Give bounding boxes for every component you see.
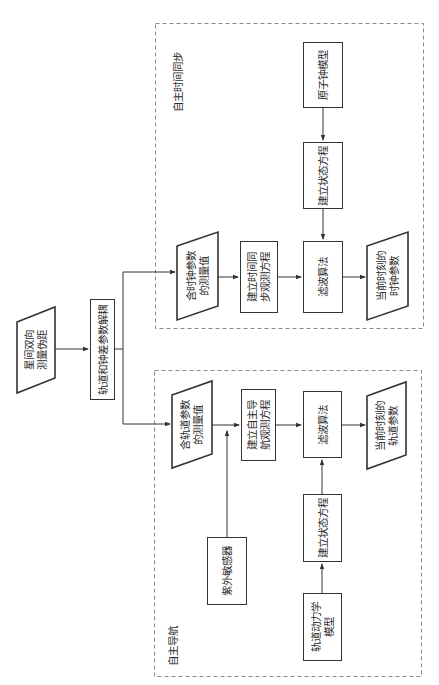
time-sync-state-eq-label: 建立状态方程	[317, 146, 330, 206]
time-sync-filter-label: 滤波算法	[317, 257, 330, 297]
navigation-model-node: 轨道动力学 模型	[303, 593, 342, 661]
source-label: 星间双向 测量伪距	[23, 330, 49, 370]
time-sync-output-label: 当前时刻的 时钟参数	[375, 251, 401, 301]
navigation-observation-eq-node: 建立自主导 航观测方程	[241, 389, 276, 461]
time-sync-output-node: 当前时刻的 时钟参数	[367, 232, 408, 320]
navigation-measurement-node: 含轨道参数 的测量值	[172, 381, 212, 468]
decouple-node: 轨道和钟差参数解耦	[90, 299, 115, 400]
time-sync-observation-eq-node: 建立时间同 步观测方程	[240, 241, 278, 313]
navigation-measurement-label: 含轨道参数 的测量值	[179, 400, 205, 450]
navigation-filter-label: 滤波算法	[316, 405, 329, 445]
navigation-output-node: 当前时刻的 轨道参数	[367, 382, 406, 469]
navigation-state-eq-node: 建立状态方程	[303, 494, 342, 562]
navigation-observation-eq-label: 建立自主导 航观测方程	[246, 400, 272, 450]
flowchart-canvas: 自主时间同步 自主导航 星间双向 测量伪距 轨道和钟差参数解耦 含时钟参数 的测…	[0, 0, 439, 685]
navigation-state-eq-label: 建立状态方程	[316, 498, 329, 558]
navigation-filter-node: 滤波算法	[303, 391, 342, 458]
time-sync-measurement-label: 含时钟参数 的测量值	[185, 251, 211, 301]
navigation-sensor-label: 紫外敏感器	[221, 546, 234, 596]
group-title-time-sync: 自主时间同步	[170, 52, 185, 112]
navigation-sensor-node: 紫外敏感器	[207, 537, 247, 605]
group-title-navigation: 自主导航	[165, 626, 180, 666]
time-sync-model-node: 原子钟模型	[303, 42, 343, 108]
time-sync-measurement-node: 含时钟参数 的测量值	[177, 232, 218, 320]
decouple-label: 轨道和钟差参数解耦	[96, 305, 109, 395]
time-sync-model-label: 原子钟模型	[317, 50, 330, 100]
time-sync-state-eq-node: 建立状态方程	[303, 142, 343, 209]
time-sync-filter-node: 滤波算法	[303, 241, 343, 313]
navigation-output-label: 当前时刻的 轨道参数	[374, 401, 400, 451]
navigation-model-label: 轨道动力学 模型	[310, 602, 336, 652]
source-node: 星间双向 测量伪距	[17, 307, 55, 393]
time-sync-observation-eq-label: 建立时间同 步观测方程	[246, 252, 272, 302]
